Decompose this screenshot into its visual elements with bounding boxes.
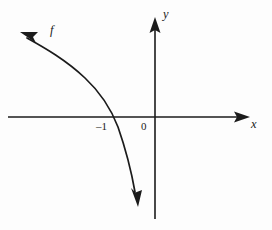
function-curve-f	[27, 38, 135, 192]
x-intercept-tick-label: –1	[96, 121, 107, 132]
origin-tick-label: 0	[141, 121, 147, 132]
figure-container: f y x –1 0	[0, 0, 272, 230]
function-label-f: f	[50, 24, 53, 37]
curve-upper-arrow-icon	[20, 32, 38, 43]
graph-canvas	[0, 0, 272, 230]
x-axis-label: x	[251, 118, 257, 131]
y-axis-label: y	[163, 8, 169, 21]
curve-lower-arrow-icon	[131, 188, 142, 207]
